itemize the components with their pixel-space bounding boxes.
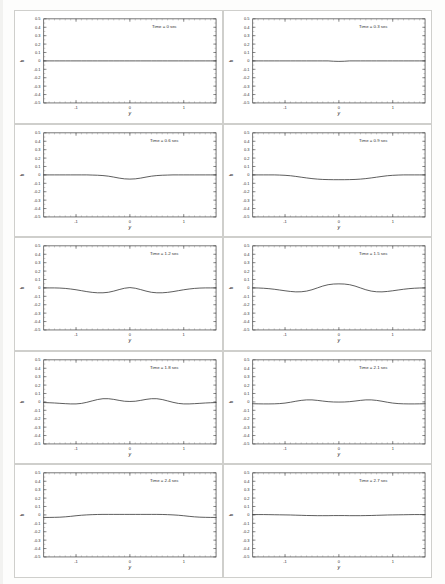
y-tick-label: 0.5 xyxy=(244,471,250,476)
y-tick-label: 0 xyxy=(247,513,250,518)
y-axis-ticks: 0.50.40.30.20.10-0.1-0.2-0.3-0.4-0.5 xyxy=(243,244,425,333)
y-tick-label: -0.1 xyxy=(243,67,250,72)
x-tick-label: 1 xyxy=(392,332,394,337)
y-tick-label: -0.4 xyxy=(34,92,42,97)
y-tick-label: 0.4 xyxy=(35,138,41,143)
y-tick-label: -0.4 xyxy=(34,206,42,211)
y-tick-label: 0.2 xyxy=(35,269,41,274)
y-tick-label: 0.3 xyxy=(244,260,250,265)
y-axis-label: h xyxy=(229,59,234,62)
y-tick-label: -0.2 xyxy=(243,416,250,421)
plot-box xyxy=(44,360,216,444)
y-tick-label: 0.2 xyxy=(244,269,250,274)
plot-box xyxy=(44,473,216,557)
y-tick-label: 0.2 xyxy=(244,382,250,387)
y-tick-label: -0.3 xyxy=(243,197,251,202)
plot-axes: 0.50.40.30.20.10-0.1-0.2-0.3-0.4-0.5-101… xyxy=(224,238,431,350)
y-tick-label: -0.5 xyxy=(34,441,42,446)
x-tick-label: -1 xyxy=(74,445,78,450)
y-tick-label: 0.5 xyxy=(35,130,41,135)
y-tick-label: 0.2 xyxy=(35,42,41,47)
minor-tick-group xyxy=(44,473,216,557)
plot-panel-inner: 0.50.40.30.20.10-0.1-0.2-0.3-0.4-0.5-101… xyxy=(15,352,222,464)
y-tick-label: 0.4 xyxy=(244,138,250,143)
y-axis-label: h xyxy=(20,59,25,62)
y-tick-label: -0.3 xyxy=(34,538,42,543)
x-tick-label: 1 xyxy=(183,332,185,337)
y-axis-label: h xyxy=(20,286,25,289)
y-tick-label: 0.3 xyxy=(35,147,41,152)
x-axis-ticks: -101 xyxy=(283,246,394,337)
y-tick-label: 0.5 xyxy=(35,16,41,21)
y-tick-label: 0.3 xyxy=(35,260,41,265)
y-axis-label: h xyxy=(20,173,25,176)
x-tick-label: -1 xyxy=(74,559,78,564)
y-tick-label: 0.3 xyxy=(244,33,250,38)
y-tick-label: 0.1 xyxy=(244,504,250,509)
data-curve xyxy=(253,61,425,62)
y-tick-label: -0.5 xyxy=(34,328,42,333)
y-tick-label: -0.5 xyxy=(243,100,251,105)
y-axis-label: h xyxy=(229,514,234,517)
y-tick-label: 0.5 xyxy=(244,130,250,135)
y-tick-label: 0 xyxy=(38,286,41,291)
y-axis-ticks: 0.50.40.30.20.10-0.1-0.2-0.3-0.4-0.5 xyxy=(34,357,216,446)
data-curve xyxy=(253,284,425,292)
x-tick-label: -1 xyxy=(283,559,287,564)
y-tick-label: 0 xyxy=(247,286,250,291)
plot-axes: 0.50.40.30.20.10-0.1-0.2-0.3-0.4-0.5-101… xyxy=(15,11,222,123)
y-tick-label: -0.4 xyxy=(34,433,42,438)
y-tick-label: 0.2 xyxy=(35,382,41,387)
y-axis-label: h xyxy=(229,286,234,289)
plot-panel-inner: 0.50.40.30.20.10-0.1-0.2-0.3-0.4-0.5-101… xyxy=(224,352,431,464)
time-annotation: Time = 1.5 sec xyxy=(359,251,388,256)
time-annotation: Time = 0 sec xyxy=(152,24,178,29)
plot-axes: 0.50.40.30.20.10-0.1-0.2-0.3-0.4-0.5-101… xyxy=(224,125,431,237)
y-tick-label: -0.3 xyxy=(243,538,251,543)
plot-panel-inner: 0.50.40.30.20.10-0.1-0.2-0.3-0.4-0.5-101… xyxy=(15,465,222,577)
y-tick-label: -0.4 xyxy=(34,546,42,551)
y-tick-label: 0.2 xyxy=(244,155,250,160)
y-tick-label: -0.2 xyxy=(34,530,41,535)
y-tick-label: -0.1 xyxy=(34,294,41,299)
y-tick-label: -0.2 xyxy=(34,189,41,194)
plot-panel: 0.50.40.30.20.10-0.1-0.2-0.3-0.4-0.5-101… xyxy=(223,237,432,351)
plot-panel: 0.50.40.30.20.10-0.1-0.2-0.3-0.4-0.5-101… xyxy=(14,464,223,578)
y-tick-label: 0.1 xyxy=(35,164,41,169)
plot-panel: 0.50.40.30.20.10-0.1-0.2-0.3-0.4-0.5-101… xyxy=(14,237,223,351)
y-tick-label: -0.1 xyxy=(34,67,41,72)
plot-panel-inner: 0.50.40.30.20.10-0.1-0.2-0.3-0.4-0.5-101… xyxy=(224,238,431,350)
plot-panel: 0.50.40.30.20.10-0.1-0.2-0.3-0.4-0.5-101… xyxy=(14,10,223,124)
y-tick-label: -0.2 xyxy=(34,416,41,421)
plot-panel-inner: 0.50.40.30.20.10-0.1-0.2-0.3-0.4-0.5-101… xyxy=(15,238,222,350)
y-tick-label: -0.3 xyxy=(243,311,251,316)
time-annotation: Time = 0.6 sec xyxy=(150,138,179,143)
data-curve xyxy=(253,400,425,404)
y-tick-label: 0.2 xyxy=(244,496,250,501)
x-tick-label: -1 xyxy=(74,218,78,223)
y-tick-label: -0.5 xyxy=(243,214,251,219)
y-tick-label: 0.5 xyxy=(35,471,41,476)
y-tick-label: 0.1 xyxy=(244,277,250,282)
y-axis-label: h xyxy=(229,173,234,176)
y-tick-label: 0.5 xyxy=(35,244,41,249)
y-tick-label: 0.1 xyxy=(35,277,41,282)
x-tick-label: 1 xyxy=(392,559,394,564)
x-tick-label: 1 xyxy=(183,105,185,110)
y-tick-label: 0.1 xyxy=(35,50,41,55)
time-annotation: Time = 0.9 sec xyxy=(359,138,388,143)
y-tick-label: 0.4 xyxy=(35,252,41,257)
y-tick-label: -0.4 xyxy=(243,433,251,438)
x-tick-label: 1 xyxy=(392,218,394,223)
plot-panel: 0.50.40.30.20.10-0.1-0.2-0.3-0.4-0.5-101… xyxy=(223,464,432,578)
plot-panel: 0.50.40.30.20.10-0.1-0.2-0.3-0.4-0.5-101… xyxy=(223,124,432,238)
y-tick-label: 0.1 xyxy=(35,504,41,509)
y-tick-label: 0.3 xyxy=(244,147,250,152)
plot-panel-inner: 0.50.40.30.20.10-0.1-0.2-0.3-0.4-0.5-101… xyxy=(224,465,431,577)
y-tick-label: -0.3 xyxy=(243,84,251,89)
figure-page: 0.50.40.30.20.10-0.1-0.2-0.3-0.4-0.5-101… xyxy=(0,0,445,584)
data-curve xyxy=(44,174,216,178)
x-axis-label: y xyxy=(337,110,341,116)
y-tick-label: 0 xyxy=(38,172,41,177)
time-annotation: Time = 2.1 sec xyxy=(359,365,388,370)
